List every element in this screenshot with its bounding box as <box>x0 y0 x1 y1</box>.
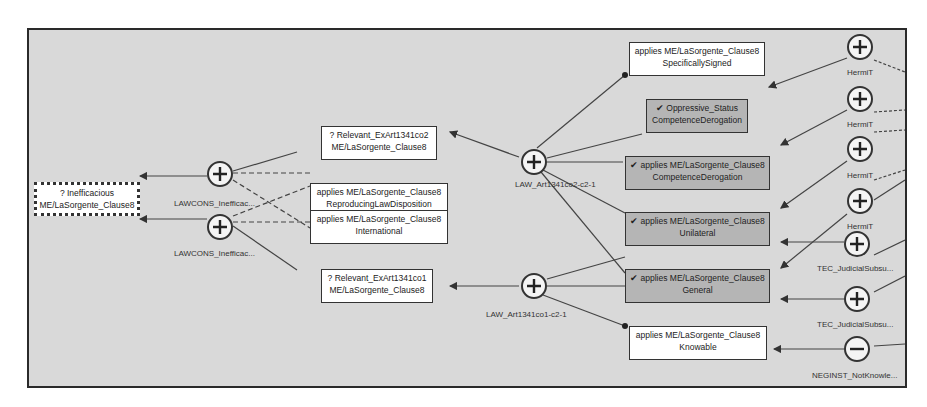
plus-icon <box>849 88 871 110</box>
node-inefficacious[interactable]: ? Inefficacious ME/LaSorgente_Clause8 <box>34 182 140 216</box>
node-knowable[interactable]: applies ME/LaSorgente_Clause8 Knowable <box>629 326 767 360</box>
argument-neginst[interactable] <box>844 336 870 362</box>
node-subtitle: General <box>626 284 769 296</box>
argument-label-tec-judicial-2: TEC_JudicialSubsu... <box>817 320 893 329</box>
node-title: ? Relevant_ExArt1341co1 <box>322 272 432 284</box>
argument-law-art1341co2[interactable] <box>521 149 547 175</box>
node-oppressive-status[interactable]: ✔ Oppressive_Status CompetenceDerogation <box>646 99 748 133</box>
node-subtitle: ReproducingLawDisposition <box>311 198 447 210</box>
plus-icon <box>849 138 871 160</box>
argument-hermit-1[interactable] <box>847 34 873 60</box>
node-competence-derogation[interactable]: ✔ applies ME/LaSorgente_Clause8 Competen… <box>625 156 770 190</box>
argument-hermit-4[interactable] <box>847 188 873 214</box>
plus-icon <box>523 151 545 173</box>
argument-hermit-3[interactable] <box>847 136 873 162</box>
argument-label-hermit-3: HermiT <box>847 171 873 180</box>
node-subtitle: International <box>311 225 447 237</box>
node-subtitle: Knowable <box>630 341 766 353</box>
node-specifically-signed[interactable]: applies ME/LaSorgente_Clause8 Specifical… <box>629 42 765 76</box>
argument-label-hermit-4: HermiT <box>847 222 873 231</box>
node-title: ✔ applies ME/LaSorgente_Clause8 <box>626 215 769 227</box>
node-subtitle: CompetenceDerogation <box>647 114 747 126</box>
node-unilateral[interactable]: ✔ applies ME/LaSorgente_Clause8 Unilater… <box>625 212 770 246</box>
node-subtitle: ME/LaSorgente_Clause8 <box>322 141 436 153</box>
argument-label-law-art1341co2: LAW_Art1341co2-c2-1 <box>515 180 596 189</box>
node-title: ✔ Oppressive_Status <box>647 102 747 114</box>
plus-icon <box>846 233 868 255</box>
minus-icon <box>846 338 868 360</box>
argument-label-tec-judicial-1: TEC_JudicialSubsu... <box>817 264 893 273</box>
plus-icon <box>849 190 871 212</box>
argument-tec-judicial-2[interactable] <box>844 286 870 312</box>
node-relevant-co1[interactable]: ? Relevant_ExArt1341co1 ME/LaSorgente_Cl… <box>321 269 433 303</box>
node-title: ✔ applies ME/LaSorgente_Clause8 <box>626 272 769 284</box>
plus-icon <box>849 36 871 58</box>
argument-label-hermit-1: HermiT <box>847 68 873 77</box>
argument-lawcons-1[interactable] <box>207 161 233 187</box>
argument-label-hermit-2: HermiT <box>847 120 873 129</box>
node-title: applies ME/LaSorgente_Clause8 <box>630 329 766 341</box>
node-subtitle: Unilateral <box>626 227 769 239</box>
argument-label-law-art1341co1: LAW_Art1341co1-c2-1 <box>486 310 567 319</box>
plus-icon <box>209 163 231 185</box>
node-title: applies ME/LaSorgente_Clause8 <box>311 213 447 225</box>
argument-graph-canvas[interactable]: ? Inefficacious ME/LaSorgente_Clause8 LA… <box>27 28 907 388</box>
node-subtitle: ME/LaSorgente_Clause8 <box>37 199 137 211</box>
node-title: ? Inefficacious <box>37 187 137 199</box>
argument-lawcons-2[interactable] <box>207 214 233 240</box>
plus-icon <box>846 288 868 310</box>
node-title: applies ME/LaSorgente_Clause8 <box>311 186 447 198</box>
argument-label-neginst: NEGINST_NotKnowle... <box>812 371 897 380</box>
node-title: applies ME/LaSorgente_Clause8 <box>630 45 764 57</box>
argument-law-art1341co1[interactable] <box>521 273 547 299</box>
node-subtitle: CompetenceDerogation <box>626 171 769 183</box>
argument-tec-judicial-1[interactable] <box>844 231 870 257</box>
node-subtitle: SpecificallySigned <box>630 57 764 69</box>
node-relevant-co2[interactable]: ? Relevant_ExArt1341co2 ME/LaSorgente_Cl… <box>321 126 437 160</box>
node-subtitle: ME/LaSorgente_Clause8 <box>322 284 432 296</box>
argument-label-lawcons-1: LAWCONS_Inefficac... <box>174 199 255 208</box>
edges-layer <box>29 30 905 386</box>
argument-hermit-2[interactable] <box>847 86 873 112</box>
node-title: ? Relevant_ExArt1341co2 <box>322 129 436 141</box>
node-international[interactable]: applies ME/LaSorgente_Clause8 Internatio… <box>310 210 448 244</box>
node-general[interactable]: ✔ applies ME/LaSorgente_Clause8 General <box>625 269 770 303</box>
argument-label-lawcons-2: LAWCONS_Inefficac... <box>174 249 255 258</box>
plus-icon <box>523 275 545 297</box>
plus-icon <box>209 216 231 238</box>
node-title: ✔ applies ME/LaSorgente_Clause8 <box>626 159 769 171</box>
